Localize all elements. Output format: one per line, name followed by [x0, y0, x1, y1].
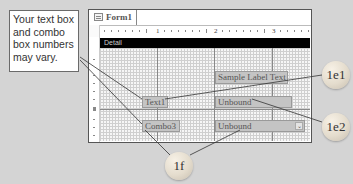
callout-note-text: Your text box and combo box numbers may …	[13, 13, 74, 63]
detail-grid[interactable]: Sample Label Text Text1 Unbound Combo3 U…	[100, 48, 310, 141]
callout-note: Your text box and combo box numbers may …	[9, 10, 79, 72]
detail-section-label: Detail	[104, 39, 122, 46]
combo3-label-text: Combo3	[145, 121, 176, 131]
detail-section-bar[interactable]: Detail	[100, 38, 310, 48]
chevron-down-icon[interactable]: ⌄	[295, 122, 303, 130]
document-tab-bar: Form1	[89, 10, 311, 26]
tab-form1[interactable]: Form1	[92, 10, 137, 25]
step-label: 1e1	[327, 67, 346, 82]
sample-label-control[interactable]: Sample Label Text	[215, 71, 288, 84]
text1-label-text: Text1	[145, 97, 165, 107]
step-callout-1e1: 1e1	[322, 61, 350, 89]
form-icon	[94, 13, 103, 21]
textbox-value: Unbound	[218, 97, 252, 107]
combo3-label-control[interactable]: Combo3	[142, 120, 180, 132]
tab-label: Form1	[106, 12, 132, 22]
ruler-number-1: 1	[156, 27, 160, 35]
ruler-number-2: 2	[214, 27, 218, 35]
grid-line	[100, 109, 310, 110]
ruler-number-3: 3	[272, 27, 276, 35]
step-callout-1e2: 1e2	[322, 113, 350, 141]
sample-label-text: Sample Label Text	[218, 72, 286, 82]
step-label: 1e2	[327, 119, 346, 134]
unbound-combobox-control[interactable]: Unbound ⌄	[215, 120, 305, 132]
step-label: 1f	[174, 158, 185, 173]
vertical-ruler[interactable]	[89, 37, 100, 142]
unbound-textbox-control[interactable]: Unbound	[215, 96, 292, 108]
combobox-value: Unbound	[218, 121, 252, 131]
step-callout-1f: 1f	[165, 152, 193, 180]
form-design-window: Form1 1 2 3 Detail S	[88, 9, 312, 143]
text1-label-control[interactable]: Text1	[142, 96, 168, 108]
horizontal-ruler[interactable]: 1 2 3	[100, 26, 311, 37]
